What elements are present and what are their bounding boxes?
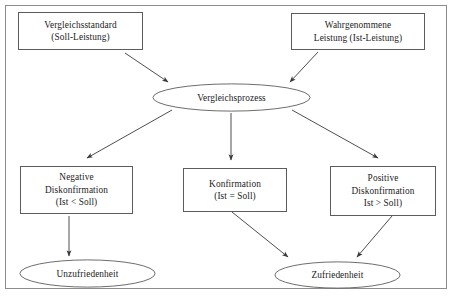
edge-standard-to-process <box>125 53 168 82</box>
node-positive-disconfirmation[interactable]: Positive Diskonfirmation Ist > Soll) <box>330 166 436 216</box>
node-perceived-performance[interactable]: Wahrgenommene Leistung (Ist-Leistung) <box>291 13 425 50</box>
node-negative-disconfirmation-line2: Diskonfirmation <box>45 184 108 196</box>
node-positive-disconfirmation-line1: Positive <box>368 172 399 184</box>
node-negative-disconfirmation-line3: (Ist < Soll) <box>56 196 98 208</box>
node-comparison-standard[interactable]: Vergleichsstandard (Soll-Leistung) <box>18 12 143 50</box>
node-comparison-process-label: Vergleichsprozess <box>152 83 311 112</box>
node-positive-disconfirmation-line2: Diskonfirmation <box>352 185 415 197</box>
node-confirmation[interactable]: Konfirmation (Ist = Soll) <box>183 168 287 212</box>
node-perceived-performance-line2: Leistung (Ist-Leistung) <box>314 32 402 44</box>
edge-positive-to-satisfaction <box>357 216 392 257</box>
edge-perceived-to-process <box>290 52 318 82</box>
node-negative-disconfirmation[interactable]: Negative Diskonfirmation (Ist < Soll) <box>20 166 133 214</box>
node-satisfaction[interactable]: Zufriedenheit <box>274 261 401 289</box>
node-comparison-standard-line2: (Soll-Leistung) <box>51 31 109 43</box>
node-satisfaction-label: Zufriedenheit <box>274 261 401 289</box>
node-confirmation-line1: Konfirmation <box>209 178 261 190</box>
node-positive-disconfirmation-line3: Ist > Soll) <box>364 197 402 209</box>
node-comparison-standard-line1: Vergleichsstandard <box>44 19 116 31</box>
diagram-canvas: Vergleichsstandard (Soll-Leistung) Wahrg… <box>0 0 460 305</box>
edge-process-to-positive <box>292 110 378 158</box>
node-negative-disconfirmation-line1: Negative <box>59 171 93 183</box>
edge-process-to-negative <box>87 110 172 158</box>
node-comparison-process[interactable]: Vergleichsprozess <box>152 83 311 112</box>
node-dissatisfaction[interactable]: Unzufriedenheit <box>19 259 156 288</box>
node-dissatisfaction-label: Unzufriedenheit <box>19 259 156 288</box>
edge-confirmation-to-satisfaction <box>232 212 288 257</box>
node-perceived-performance-line1: Wahrgenommene <box>325 19 391 31</box>
node-confirmation-line2: (Ist = Soll) <box>214 190 256 202</box>
